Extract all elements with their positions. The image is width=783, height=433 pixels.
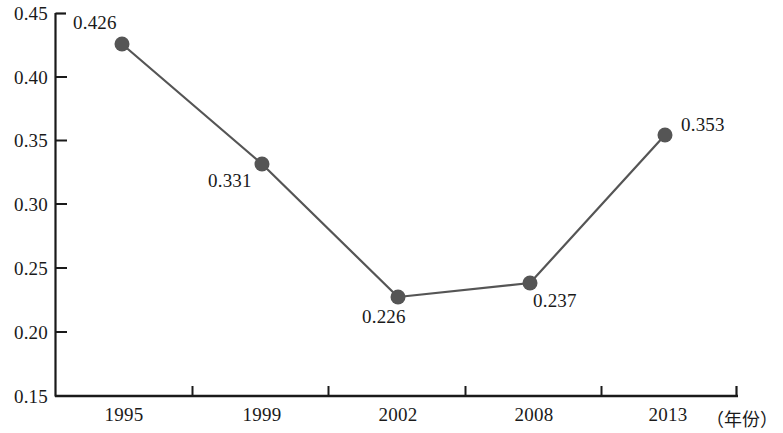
data-point-2002 [391,290,406,305]
data-label-2008: 0.237 [533,290,577,312]
plot-area [0,0,783,433]
y-tick-label-040: 0.40 [0,67,48,89]
y-tick-label-025: 0.25 [0,258,48,280]
data-point-2013 [658,128,673,143]
y-axis-ticks [56,77,68,332]
data-line-series-0 [122,44,665,297]
data-point-2008 [523,276,538,291]
data-label-1999: 0.331 [208,170,252,192]
x-tick-label-2008: 2008 [494,404,574,426]
x-tick-label-1995: 1995 [84,404,164,426]
y-tick-label-015: 0.15 [0,386,48,408]
data-label-1995: 0.426 [73,12,117,34]
line-chart: 0.45 0.40 0.35 0.30 0.25 0.20 0.15 1995 … [0,0,783,433]
data-point-1999 [255,157,270,172]
data-point-1995 [115,37,130,52]
y-tick-label-030: 0.30 [0,194,48,216]
y-tick-label-035: 0.35 [0,130,48,152]
x-tick-label-1999: 1999 [222,404,302,426]
x-tick-label-2013: 2013 [628,404,708,426]
x-axis-ticks [193,386,602,396]
data-label-2013: 0.353 [681,114,725,136]
y-tick-label-020: 0.20 [0,322,48,344]
data-label-2002: 0.226 [362,306,406,328]
x-axis-title: （年份） [706,405,778,431]
x-tick-label-2002: 2002 [358,404,438,426]
data-point-markers [115,37,673,305]
y-tick-label-045: 0.45 [0,3,48,25]
